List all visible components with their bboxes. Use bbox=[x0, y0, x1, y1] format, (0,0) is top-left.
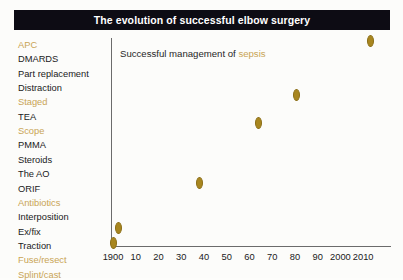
data-point-marker bbox=[367, 35, 374, 47]
x-axis-tick-label: 2000 bbox=[330, 252, 351, 262]
y-axis-label: Splint/cast bbox=[18, 270, 61, 280]
y-axis-label: ORIF bbox=[18, 184, 40, 194]
y-axis-label: Distraction bbox=[18, 83, 62, 93]
y-axis-label: Ex/fix bbox=[18, 227, 41, 237]
y-axis-label: TEA bbox=[18, 112, 36, 122]
x-axis-tick-label: 2010 bbox=[353, 252, 374, 262]
y-axis-label: Scope bbox=[18, 126, 44, 136]
x-axis-tick-label: 20 bbox=[153, 252, 163, 262]
annotation-accent: sepsis bbox=[238, 48, 265, 59]
y-axis-label: The AO bbox=[18, 169, 50, 179]
x-axis-tick-label: 10 bbox=[131, 252, 141, 262]
x-axis-tick-label: 50 bbox=[222, 252, 232, 262]
y-axis-label: APC bbox=[18, 40, 37, 50]
x-axis-tick-label: 1900 bbox=[103, 252, 124, 262]
x-axis-tick-label: 80 bbox=[290, 252, 300, 262]
x-axis-line bbox=[111, 246, 391, 247]
y-axis-label: Steroids bbox=[18, 155, 52, 165]
data-point-marker bbox=[196, 177, 203, 189]
y-axis-label: Antibiotics bbox=[18, 198, 60, 208]
y-axis-label: PMMA bbox=[18, 140, 46, 150]
data-point-marker bbox=[115, 222, 122, 234]
data-point-marker bbox=[110, 237, 117, 249]
x-axis-tick-label: 30 bbox=[176, 252, 186, 262]
data-point-marker bbox=[293, 89, 300, 101]
y-axis-line bbox=[111, 38, 112, 247]
y-axis-label: DMARDS bbox=[18, 54, 58, 64]
x-axis-tick-label: 40 bbox=[199, 252, 209, 262]
y-axis-category-labels: APCDMARDSPart replacementDistractionStag… bbox=[18, 33, 108, 248]
x-axis-tick-label: 90 bbox=[313, 252, 323, 262]
x-axis-tick-label: 70 bbox=[267, 252, 277, 262]
y-axis-label: Staged bbox=[18, 97, 47, 107]
y-axis-label: Interposition bbox=[18, 212, 69, 222]
page-title: The evolution of successful elbow surger… bbox=[94, 14, 310, 26]
y-axis-label: Part replacement bbox=[18, 69, 89, 79]
x-axis-tick-labels: 190010203040506070809020002010 bbox=[0, 252, 403, 268]
annotation-prefix: Successful management of bbox=[120, 48, 238, 59]
data-point-marker bbox=[255, 117, 262, 129]
chart-title-banner: The evolution of successful elbow surger… bbox=[14, 10, 390, 30]
x-axis-tick-label: 60 bbox=[244, 252, 254, 262]
y-axis-label: Traction bbox=[18, 241, 51, 251]
annotation-sepsis: Successful management of sepsis bbox=[120, 48, 266, 59]
